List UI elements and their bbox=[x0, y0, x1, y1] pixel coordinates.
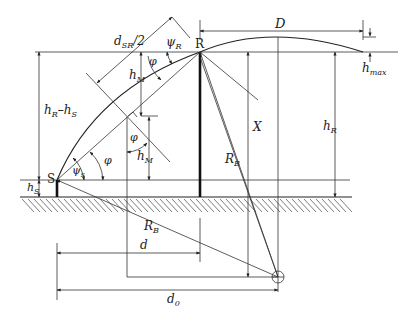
label-h-m-lower: hM bbox=[137, 149, 154, 165]
label-h-s: hS bbox=[27, 181, 40, 196]
label-point-r: R bbox=[195, 37, 205, 51]
right-angle-mark bbox=[128, 112, 137, 117]
label-d-sr-half: dSR/2 bbox=[114, 34, 145, 50]
label-phi-s: φ bbox=[104, 154, 112, 167]
arc-beyond-r bbox=[200, 37, 363, 52]
radius-r-b-from-s bbox=[57, 180, 278, 277]
label-psi-r: ψR bbox=[166, 35, 181, 51]
label-d: d bbox=[140, 238, 148, 252]
perpendicular-bisector bbox=[86, 73, 170, 162]
label-psi-s: ψs bbox=[72, 164, 85, 179]
label-h-m-upper: hM bbox=[129, 68, 146, 84]
label-d0: d0 bbox=[167, 292, 180, 308]
rolling-sphere-diagram: dSR/2 ψR R S D hmax hM hM φ φ φ ψs hR–hS… bbox=[0, 0, 407, 317]
label-phi-top: φ bbox=[149, 55, 157, 68]
ground-hatching bbox=[20, 197, 352, 212]
label-r-b-lower: RB bbox=[143, 219, 159, 235]
angle-psi-r bbox=[167, 52, 172, 64]
label-point-s: S bbox=[47, 172, 55, 186]
label-r-b-upper: RB bbox=[224, 152, 240, 168]
label-h-max: hmax bbox=[362, 61, 387, 77]
angle-phi-s bbox=[90, 152, 103, 180]
label-phi-mid: φ bbox=[130, 131, 138, 144]
label-h-r-minus-h-s: hR–hS bbox=[44, 103, 78, 119]
label-x: X bbox=[252, 120, 262, 134]
label-d-span: D bbox=[274, 16, 286, 31]
